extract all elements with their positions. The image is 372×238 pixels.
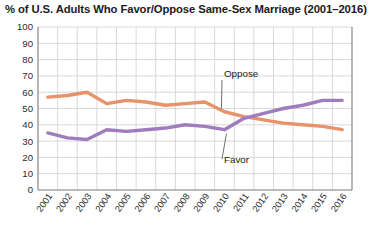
y-axis-tick-label: 100 — [17, 21, 33, 32]
y-axis-tick-label: 50 — [22, 103, 33, 114]
y-axis-tick-label: 20 — [22, 152, 33, 163]
x-axis-tick-label: 2016 — [329, 191, 349, 213]
x-axis-tick-label: 2006 — [133, 191, 153, 213]
x-axis-tick-label: 2009 — [192, 191, 212, 213]
x-axis-tick-label: 2015 — [309, 191, 329, 213]
x-axis-tick-label: 2002 — [54, 191, 74, 213]
x-axis-tick-label: 2010 — [211, 191, 231, 213]
y-axis-tick-label: 60 — [22, 87, 33, 98]
line-chart-plot: 1009080706050403020100200120022003200420… — [0, 0, 372, 238]
x-axis-tick-label: 2005 — [113, 191, 133, 213]
x-axis-tick-label: 2008 — [172, 191, 192, 213]
y-axis-tick-label: 30 — [22, 136, 33, 147]
y-axis-tick-label: 70 — [22, 70, 33, 81]
chart-container: % of U.S. Adults Who Favor/Oppose Same-S… — [0, 0, 372, 238]
y-axis-tick-label: 0 — [28, 184, 33, 195]
oppose-leader-line — [221, 80, 222, 109]
y-axis-tick-label: 40 — [22, 119, 33, 130]
x-axis-tick-label: 2001 — [35, 191, 55, 213]
series-label-favor: Favor — [224, 154, 250, 165]
y-axis-tick-label: 90 — [22, 38, 33, 49]
x-axis-tick-label: 2007 — [152, 191, 172, 213]
series-label-oppose: Oppose — [224, 68, 259, 79]
x-axis-tick-label: 2003 — [74, 191, 94, 213]
x-axis-tick-label: 2013 — [270, 191, 290, 213]
y-axis-tick-label: 80 — [22, 54, 33, 65]
x-axis-tick-label: 2012 — [250, 191, 270, 213]
x-axis-tick-label: 2011 — [231, 191, 251, 213]
x-axis-tick-label: 2014 — [290, 191, 310, 213]
x-axis-tick-label: 2004 — [93, 191, 113, 213]
y-axis-tick-label: 10 — [22, 168, 33, 179]
